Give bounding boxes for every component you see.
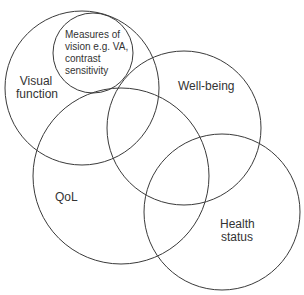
measures-line-1: Measures of bbox=[65, 29, 128, 41]
label-qol: QoL bbox=[55, 191, 78, 204]
venn-circles bbox=[0, 0, 304, 295]
measures-line-4: sensitivity bbox=[65, 65, 128, 77]
label-visual-function: Visual function bbox=[16, 75, 56, 101]
label-health-status: Health status bbox=[220, 218, 254, 244]
circle-qol bbox=[33, 88, 209, 264]
venn-diagram: Measures of vision e.g. VA, contrast sen… bbox=[0, 0, 304, 295]
circle-well-being bbox=[107, 51, 261, 205]
measures-line-3: contrast bbox=[65, 53, 128, 65]
measures-line-2: vision e.g. VA, bbox=[65, 41, 128, 53]
label-well-being: Well-being bbox=[178, 80, 234, 93]
circle-health-status bbox=[144, 134, 300, 290]
health-line-2: status bbox=[220, 231, 254, 244]
label-measures-of-vision: Measures of vision e.g. VA, contrast sen… bbox=[65, 29, 128, 77]
visual-line-2: function bbox=[16, 88, 56, 101]
